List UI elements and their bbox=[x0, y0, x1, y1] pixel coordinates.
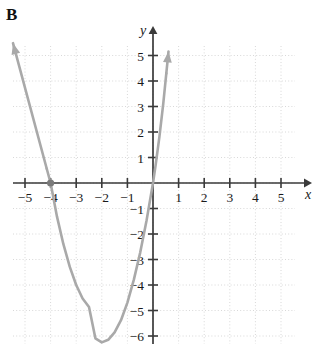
x-axis-tick-label: −2 bbox=[95, 190, 109, 205]
y-axis-tick-label: 4 bbox=[137, 74, 144, 89]
y-axis-tick-label: −5 bbox=[130, 304, 145, 319]
x-axis-tick-label: 4 bbox=[252, 190, 259, 205]
x-axis-tick-label: −4 bbox=[43, 190, 58, 205]
x-axis-tick-label: 3 bbox=[226, 190, 233, 205]
y-axis-tick-label: −1 bbox=[130, 202, 144, 217]
x-axis-label: x bbox=[304, 187, 312, 202]
y-axis-tick-label: 1 bbox=[137, 151, 144, 166]
curve-arrowhead bbox=[12, 43, 20, 55]
curve-extension-left bbox=[13, 43, 47, 169]
x-intercept-marker bbox=[47, 179, 54, 186]
parabola-curve bbox=[47, 73, 167, 342]
y-axis-tick-label: 5 bbox=[137, 49, 144, 64]
x-axis-tick-label: −3 bbox=[69, 190, 84, 205]
x-axis-tick-label: 1 bbox=[175, 190, 182, 205]
y-axis-tick-label: 2 bbox=[137, 125, 144, 140]
y-axis-label: y bbox=[138, 23, 147, 38]
graph-figure: −5−4−3−2−112345 54321−1−2−3−4−5−6 x y bbox=[0, 0, 320, 352]
x-axis-tick-label: 5 bbox=[278, 190, 285, 205]
y-axis-tick-label: −6 bbox=[130, 329, 145, 344]
y-axis-tick-label: 3 bbox=[137, 100, 144, 115]
x-axis-tick-label: −5 bbox=[18, 190, 33, 205]
axes bbox=[13, 26, 312, 344]
parabola-arrowheads bbox=[12, 43, 172, 169]
plotted-point-markers bbox=[47, 179, 54, 186]
y-axis-arrowhead bbox=[149, 26, 158, 34]
coordinate-plane-svg: −5−4−3−2−112345 54321−1−2−3−4−5−6 x y bbox=[0, 0, 320, 352]
x-axis-tick-label: 2 bbox=[201, 190, 208, 205]
